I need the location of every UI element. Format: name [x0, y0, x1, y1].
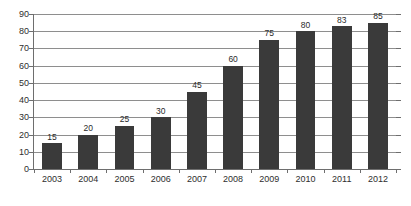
x-axis-tick	[251, 170, 252, 173]
y-axis-tick	[29, 83, 33, 84]
y-axis-tick-label: 0	[3, 165, 29, 174]
bar-value-label: 25	[120, 115, 129, 124]
bar[interactable]	[115, 126, 135, 169]
bar[interactable]	[223, 66, 243, 169]
x-axis-tick	[360, 170, 361, 173]
y-axis-tick-label: 20	[3, 131, 29, 140]
bar-slot: 20	[70, 14, 106, 169]
y-axis-tick-right	[396, 83, 401, 84]
x-axis-tick-label: 2006	[143, 174, 179, 185]
bar-slot: 85	[360, 14, 396, 169]
x-axis-tick	[287, 170, 288, 173]
bar-slot: 30	[143, 14, 179, 169]
x-axis-tick	[396, 170, 397, 173]
bar-value-label: 20	[84, 124, 93, 133]
y-axis-tick-right	[396, 135, 401, 136]
y-axis-tick-right	[396, 152, 401, 153]
x-axis-tick-label: 2010	[287, 174, 323, 185]
x-axis-tick	[143, 170, 144, 173]
y-axis-tick-right	[396, 31, 401, 32]
y-axis-tick-right	[396, 117, 401, 118]
x-axis-tick	[179, 170, 180, 173]
x-axis-tick-label: 2009	[251, 174, 287, 185]
bar[interactable]	[151, 117, 171, 169]
bar-slot: 80	[287, 14, 323, 169]
bar-slot: 83	[324, 14, 360, 169]
bar-slot: 25	[106, 14, 142, 169]
bar-value-label: 45	[192, 81, 201, 90]
bar[interactable]	[78, 135, 98, 169]
y-axis-tick-right	[396, 48, 401, 49]
y-axis-labels: 9080706050403020100	[0, 14, 29, 169]
y-axis-tick-label: 40	[3, 96, 29, 105]
y-axis-tick	[29, 100, 33, 101]
bar-value-label: 30	[156, 107, 165, 116]
y-axis-tick	[29, 14, 33, 15]
y-axis-tick	[29, 117, 33, 118]
y-axis-tick	[29, 31, 33, 32]
x-axis-tick-label: 2005	[106, 174, 142, 185]
y-axis-tick	[29, 152, 33, 153]
x-axis-tick-label: 2004	[70, 174, 106, 185]
x-axis-tick	[70, 170, 71, 173]
y-axis-tick-label: 70	[3, 44, 29, 53]
x-axis-labels: 2003200420052006200720082009201020112012	[34, 174, 396, 185]
y-axis-tick-label: 60	[3, 62, 29, 71]
bar-chart: 9080706050403020100 15202530456075808385…	[0, 0, 411, 206]
x-axis-tick-label: 2003	[34, 174, 70, 185]
y-axis-tick-right	[396, 14, 401, 15]
bar-value-label: 85	[373, 12, 382, 21]
bar-value-label: 80	[301, 21, 310, 30]
y-axis-tick-label: 30	[3, 113, 29, 122]
x-axis-tick-label: 2008	[215, 174, 251, 185]
bar-slot: 60	[215, 14, 251, 169]
y-axis-tick	[29, 169, 33, 170]
y-axis-tick-label: 10	[3, 148, 29, 157]
bar-slot: 15	[34, 14, 70, 169]
bar-slot: 75	[251, 14, 287, 169]
bar[interactable]	[187, 92, 207, 170]
bar[interactable]	[259, 40, 279, 169]
y-axis-tick-right	[396, 100, 401, 101]
bar[interactable]	[332, 26, 352, 169]
x-axis-tick	[106, 170, 107, 173]
bar-series: 15202530456075808385	[34, 14, 396, 169]
bar-value-label: 15	[47, 133, 56, 142]
y-axis-tick-label: 80	[3, 27, 29, 36]
y-axis-tick	[29, 66, 33, 67]
x-axis-tick-label: 2007	[179, 174, 215, 185]
bar-slot: 45	[179, 14, 215, 169]
x-axis-tick-label: 2011	[324, 174, 360, 185]
bar[interactable]	[296, 31, 316, 169]
x-axis-tick	[215, 170, 216, 173]
bar-value-label: 83	[337, 16, 346, 25]
bar-value-label: 60	[228, 55, 237, 64]
y-axis-tick-right	[396, 66, 401, 67]
y-axis-tick	[29, 135, 33, 136]
bar[interactable]	[42, 143, 62, 169]
y-axis-tick	[29, 48, 33, 49]
bar[interactable]	[368, 23, 388, 169]
y-axis-tick-label: 90	[3, 10, 29, 19]
x-axis-tick-label: 2012	[360, 174, 396, 185]
x-axis-tick	[324, 170, 325, 173]
x-axis-tick	[34, 170, 35, 173]
bar-value-label: 75	[265, 29, 274, 38]
y-axis-tick-label: 50	[3, 79, 29, 88]
